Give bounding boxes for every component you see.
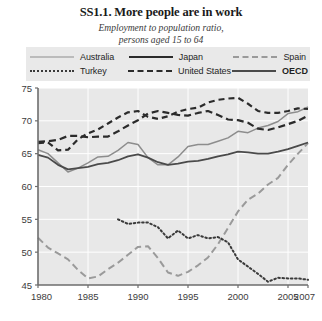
x-axis-tick-label: 1985	[77, 291, 98, 302]
legend-row-2: Turkey United States OECD	[30, 64, 306, 78]
legend-item-japan[interactable]: Japan	[129, 50, 234, 64]
figure-title: SS1.1. More people are in work	[0, 5, 322, 20]
plot-area-wrapper: 4550556065707519801985199019952000200520…	[0, 84, 322, 321]
x-axis-tick-label: 1995	[177, 291, 198, 302]
y-axis-tick-label: 45	[21, 280, 32, 291]
y-axis-tick-label: 60	[21, 181, 32, 192]
subtitle-line-2: persons aged 15 to 64	[0, 34, 322, 46]
legend-item-spain[interactable]: Spain	[233, 50, 306, 64]
legend-swatch-united-states-icon	[128, 66, 172, 76]
y-axis-tick-label: 65	[21, 148, 32, 159]
x-axis-tick-label: 1990	[127, 291, 148, 302]
line-chart: 4550556065707519801985199019952000200520…	[0, 84, 322, 321]
chart-legend: Australia Japan Spain Turkey United Stat…	[26, 47, 310, 81]
x-axis-tick-label: 2007	[294, 291, 315, 302]
legend-item-united-states[interactable]: United States	[128, 64, 232, 78]
legend-swatch-oecd-icon	[232, 66, 276, 76]
x-axis-tick-label: 2000	[227, 291, 248, 302]
figure-container: SS1.1. More people are in work Employmen…	[0, 0, 322, 321]
legend-label-turkey: Turkey	[80, 66, 107, 76]
y-axis-tick-label: 50	[21, 247, 32, 258]
legend-label-united-states: United States	[178, 66, 231, 76]
legend-swatch-spain-icon	[233, 52, 277, 62]
y-axis-tick-label: 70	[21, 115, 32, 126]
legend-swatch-japan-icon	[129, 52, 173, 62]
legend-swatch-turkey-icon	[30, 66, 74, 76]
figure-subtitle: Employment to population ratio, persons …	[0, 22, 322, 45]
legend-label-spain: Spain	[283, 52, 306, 62]
y-axis-tick-label: 55	[21, 214, 32, 225]
legend-row-1: Australia Japan Spain	[30, 50, 306, 64]
y-axis-tick-label: 75	[21, 84, 32, 94]
legend-label-japan: Japan	[179, 52, 203, 62]
subtitle-line-1: Employment to population ratio,	[0, 22, 322, 34]
legend-item-oecd[interactable]: OECD	[232, 64, 306, 78]
legend-label-australia: Australia	[80, 52, 114, 62]
legend-item-australia[interactable]: Australia	[30, 50, 129, 64]
legend-swatch-australia-icon	[30, 52, 74, 62]
legend-item-turkey[interactable]: Turkey	[30, 64, 128, 78]
x-axis-tick-label: 1980	[31, 291, 52, 302]
legend-label-oecd: OECD	[282, 66, 308, 76]
